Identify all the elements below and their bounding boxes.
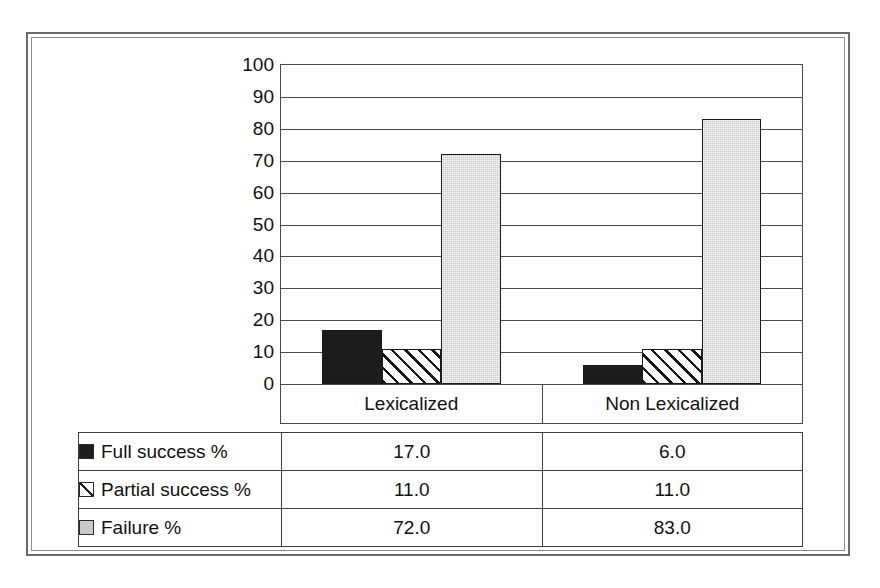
value-failure-lexicalized: 72.0 xyxy=(282,509,543,547)
category-label-text: Non Lexicalized xyxy=(605,393,739,415)
legend-label-failure: Failure % xyxy=(101,517,181,539)
legend-cell-failure: Failure % xyxy=(79,509,282,547)
category-label-non-lexicalized: Non Lexicalized xyxy=(542,385,803,423)
bar-failure-lexicalized xyxy=(441,154,501,384)
chart-data-table: Full success % 17.0 6.0 Partial success … xyxy=(78,432,803,547)
y-axis-tick-label: 20 xyxy=(253,310,274,329)
legend-cell-partial-success: Partial success % xyxy=(79,471,282,509)
value-full-success-lexicalized: 17.0 xyxy=(282,433,543,471)
legend-swatch-partial-success-icon xyxy=(79,482,94,497)
bar-group-lexicalized xyxy=(281,65,542,384)
value-partial-success-lexicalized: 11.0 xyxy=(282,471,543,509)
legend-swatch-full-success-icon xyxy=(79,444,94,459)
y-axis-tick-label: 40 xyxy=(253,246,274,265)
category-label-lexicalized: Lexicalized xyxy=(281,385,542,423)
y-axis-tick-label: 60 xyxy=(253,182,274,201)
bar-failure-non-lexicalized xyxy=(702,119,762,384)
y-axis-tick-label: 70 xyxy=(253,150,274,169)
y-axis-tick-label: 0 xyxy=(263,374,274,393)
y-axis-tick-labels: 1009080706050403020100 xyxy=(232,64,274,385)
chart-plot-area xyxy=(280,64,803,385)
y-axis-tick-label: 30 xyxy=(253,278,274,297)
y-axis-tick-label: 80 xyxy=(253,118,274,137)
table-row: Failure % 72.0 83.0 xyxy=(79,509,803,547)
bar-partial-success-lexicalized xyxy=(382,349,442,384)
legend-cell-full-success: Full success % xyxy=(79,433,282,471)
y-axis-tick-label: 100 xyxy=(242,55,274,74)
bar-group-non-lexicalized xyxy=(542,65,803,384)
y-axis-tick-label: 50 xyxy=(253,214,274,233)
category-axis-row: Lexicalized Non Lexicalized xyxy=(280,385,803,424)
y-axis-tick-label: 90 xyxy=(253,86,274,105)
value-partial-success-non-lexicalized: 11.0 xyxy=(542,471,803,509)
legend-swatch-failure-icon xyxy=(79,520,94,535)
category-label-text: Lexicalized xyxy=(364,393,458,415)
y-axis-tick-label: 10 xyxy=(253,342,274,361)
value-failure-non-lexicalized: 83.0 xyxy=(542,509,803,547)
bar-full-success-lexicalized xyxy=(322,330,382,384)
table-body: Full success % 17.0 6.0 Partial success … xyxy=(79,433,803,547)
legend-label-partial-success: Partial success % xyxy=(101,479,251,501)
legend-label-full-success: Full success % xyxy=(101,441,228,463)
table-row: Full success % 17.0 6.0 xyxy=(79,433,803,471)
bar-partial-success-non-lexicalized xyxy=(642,349,702,384)
bar-full-success-non-lexicalized xyxy=(583,365,643,384)
table-row: Partial success % 11.0 11.0 xyxy=(79,471,803,509)
value-full-success-non-lexicalized: 6.0 xyxy=(542,433,803,471)
